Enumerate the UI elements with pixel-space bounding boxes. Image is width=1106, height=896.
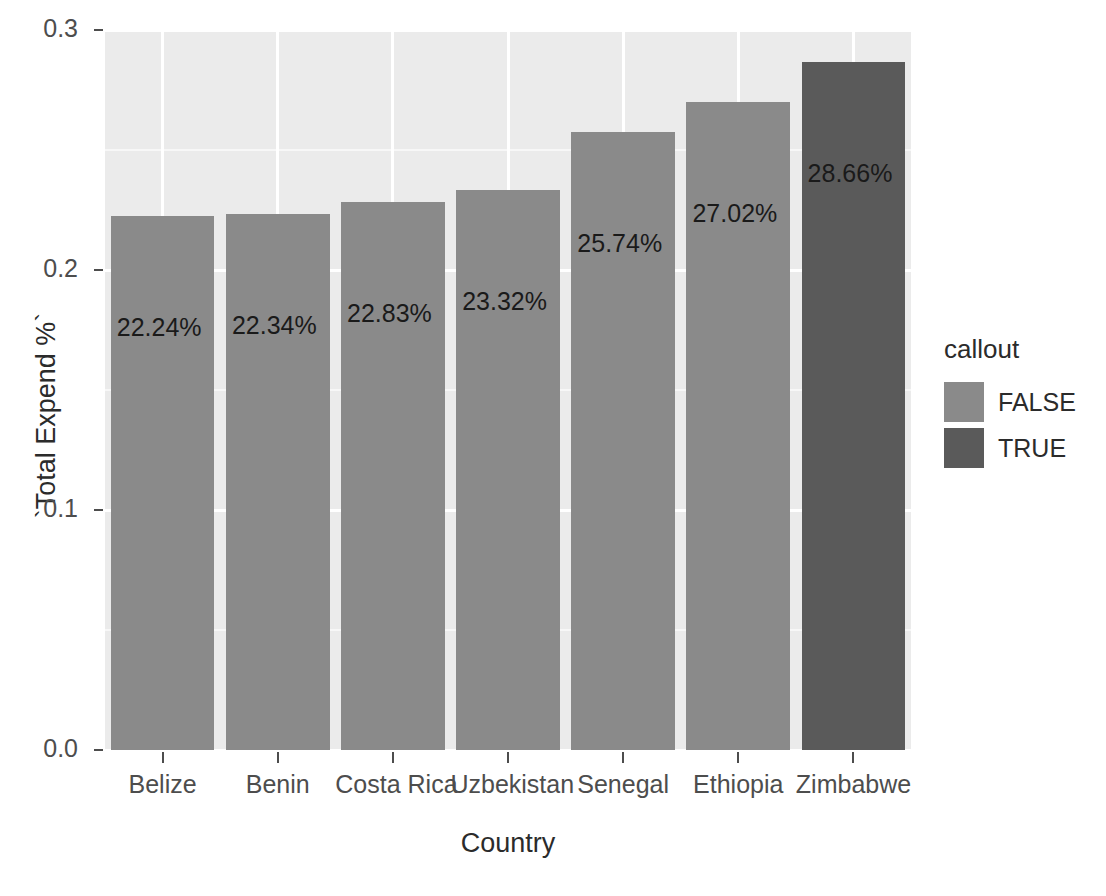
- bar: [456, 190, 560, 750]
- bar-value-label: 28.66%: [808, 159, 893, 188]
- bar-value-label: 23.32%: [462, 287, 547, 316]
- bar: [571, 132, 675, 750]
- plot-panel: [105, 30, 911, 750]
- bar: [111, 216, 215, 750]
- y-tick-mark: [94, 269, 103, 271]
- legend-entry-true[interactable]: TRUE: [944, 425, 1104, 471]
- legend: callout FALSETRUE: [944, 334, 1104, 471]
- x-tick-label: Costa Rica: [335, 770, 450, 799]
- y-tick-label: 0.1: [8, 494, 78, 523]
- x-tick-label: Senegal: [566, 770, 681, 799]
- x-tick-label: Zimbabwe: [796, 770, 911, 799]
- bar-value-label: 25.74%: [577, 229, 662, 258]
- legend-title: callout: [944, 334, 1104, 365]
- bar-value-label: 27.02%: [692, 199, 777, 228]
- y-tick-label: 0.3: [8, 14, 78, 43]
- x-tick-mark: [277, 752, 279, 763]
- x-tick-label: Benin: [220, 770, 335, 799]
- x-tick-label: Ethiopia: [681, 770, 796, 799]
- x-tick-mark: [852, 752, 854, 763]
- y-tick-mark: [94, 749, 103, 751]
- legend-entry-label: FALSE: [998, 388, 1076, 417]
- x-tick-mark: [507, 752, 509, 763]
- y-tick-label: 0.0: [8, 734, 78, 763]
- x-tick-label: Uzbekistan: [450, 770, 565, 799]
- legend-key-swatch: [944, 382, 984, 422]
- bar: [341, 202, 445, 750]
- x-tick-mark: [737, 752, 739, 763]
- x-axis-title: Country: [105, 828, 911, 859]
- legend-key-swatch: [944, 428, 984, 468]
- bar-value-label: 22.34%: [232, 311, 317, 340]
- y-tick-label: 0.2: [8, 254, 78, 283]
- bar-value-label: 22.83%: [347, 299, 432, 328]
- bar-chart-figure: `Total Expend %` 0.00.10.20.3 22.24%22.3…: [0, 0, 1106, 896]
- x-tick-label: Belize: [105, 770, 220, 799]
- bar-value-label: 22.24%: [117, 313, 202, 342]
- y-tick-mark: [94, 509, 103, 511]
- legend-entries: FALSETRUE: [944, 379, 1104, 471]
- legend-entry-false[interactable]: FALSE: [944, 379, 1104, 425]
- x-tick-mark: [392, 752, 394, 763]
- x-tick-mark: [162, 752, 164, 763]
- legend-entry-label: TRUE: [998, 434, 1066, 463]
- x-tick-mark: [622, 752, 624, 763]
- y-tick-mark: [94, 29, 103, 31]
- bar: [226, 214, 330, 750]
